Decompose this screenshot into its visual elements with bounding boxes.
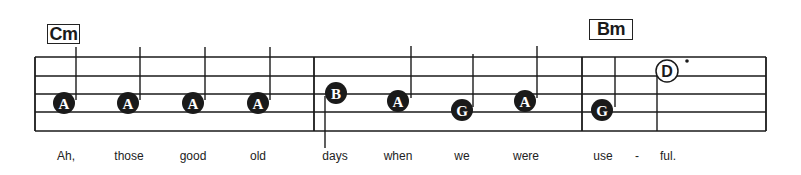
note-name-a: A xyxy=(247,93,269,115)
lyric-syllable: were xyxy=(513,149,539,163)
note-name-d: D xyxy=(656,61,678,83)
note-name-a: A xyxy=(53,93,75,115)
lyric-syllable: Ah, xyxy=(57,149,75,163)
note-stems xyxy=(76,46,657,148)
lyric-syllable: days xyxy=(322,149,347,163)
lyric-syllable: good xyxy=(180,149,207,163)
lyric-syllable: use xyxy=(593,149,612,163)
lyric-syllable: - xyxy=(635,149,639,163)
lyric-syllable: when xyxy=(384,149,413,163)
note-name-g: G xyxy=(451,100,473,122)
lyric-syllable: those xyxy=(114,149,143,163)
chord-symbol-cm: Cm xyxy=(47,24,80,44)
lyric-syllable: old xyxy=(250,149,266,163)
lyric-syllable: we xyxy=(454,149,469,163)
note-name-g: G xyxy=(591,100,613,122)
lyric-syllable: ful. xyxy=(660,149,676,163)
chord-symbol-bm: Bm xyxy=(589,19,633,40)
note-name-a: A xyxy=(514,91,536,113)
augmentation-dot xyxy=(685,59,689,63)
note-name-a: A xyxy=(387,91,409,113)
note-name-b: B xyxy=(325,83,347,105)
note-name-a: A xyxy=(117,93,139,115)
note-name-a: A xyxy=(182,93,204,115)
